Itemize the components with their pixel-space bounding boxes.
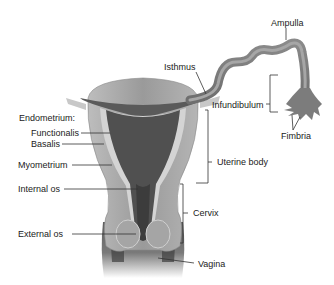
label-functionalis: Functionalis bbox=[31, 128, 80, 138]
label-basalis: Basalis bbox=[31, 139, 61, 149]
label-ampulla: Ampulla bbox=[271, 18, 304, 28]
label-fimbria: Fimbria bbox=[281, 131, 311, 141]
uterus-anatomy-diagram: Ampulla Isthmus Infundibulum Fimbria End… bbox=[0, 0, 334, 285]
label-vagina: Vagina bbox=[198, 259, 225, 269]
label-isthmus: Isthmus bbox=[164, 62, 196, 72]
label-external-os: External os bbox=[18, 229, 64, 239]
label-cervix: Cervix bbox=[193, 208, 219, 218]
label-endometrium: Endometrium: bbox=[19, 113, 75, 123]
label-infundibulum: Infundibulum bbox=[212, 100, 264, 110]
label-uterine-body: Uterine body bbox=[217, 157, 269, 167]
label-myometrium: Myometrium bbox=[18, 160, 68, 170]
label-internal-os: Internal os bbox=[18, 184, 61, 194]
